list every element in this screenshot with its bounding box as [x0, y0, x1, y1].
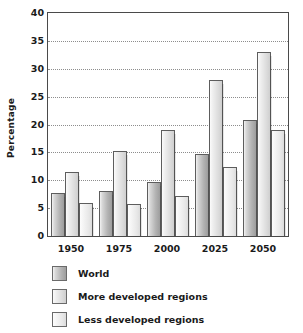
- y-axis-tick-label: 35: [18, 34, 44, 45]
- legend-label-0: World: [78, 268, 109, 279]
- legend-label-2: Less developed regions: [78, 314, 204, 325]
- bar-1950-series-0: [51, 193, 65, 236]
- bar-group-2000: [147, 13, 190, 236]
- bar-2050-series-0: [243, 120, 257, 236]
- y-axis-tick-label: 30: [18, 62, 44, 73]
- bar-2000-series-1: [161, 130, 175, 236]
- bar-1975-series-1: [113, 151, 127, 236]
- x-axis-tick-label-2025: 2025: [202, 243, 228, 254]
- bar-groups: [48, 13, 288, 236]
- y-axis-tick-label: 25: [18, 90, 44, 101]
- x-axis-tick-label-2050: 2050: [250, 243, 276, 254]
- legend-swatch-icon-1: [52, 289, 67, 304]
- x-axis-tick-label-2000: 2000: [154, 243, 180, 254]
- x-axis-tick-labels: 19501975200020252050: [47, 243, 289, 259]
- bar-group-1950: [51, 13, 94, 236]
- bar-2025-series-2: [223, 167, 237, 236]
- bar-2025-series-1: [209, 80, 223, 236]
- bar-group-1975: [99, 13, 142, 236]
- legend-item-0: World: [52, 262, 292, 285]
- x-axis-tick-label-1950: 1950: [58, 243, 84, 254]
- bar-2025-series-0: [195, 154, 209, 237]
- bar-2050-series-1: [257, 52, 271, 236]
- legend-label-1: More developed regions: [78, 291, 208, 302]
- y-axis-tick-label: 0: [18, 230, 44, 241]
- y-axis-tick-label: 20: [18, 118, 44, 129]
- bar-2000-series-0: [147, 182, 161, 236]
- legend-swatch-icon-2: [52, 312, 67, 327]
- y-axis-tick-label: 40: [18, 7, 44, 18]
- bar-group-2050: [243, 13, 286, 236]
- bar-group-2025: [195, 13, 238, 236]
- y-axis-title-text: Percentage: [6, 98, 16, 158]
- bar-1950-series-2: [79, 203, 93, 236]
- x-axis-tick-label-1975: 1975: [106, 243, 132, 254]
- y-axis-tick-label: 15: [18, 146, 44, 157]
- legend-item-2: Less developed regions: [52, 308, 292, 331]
- y-axis-tick-label: 5: [18, 202, 44, 213]
- plot-area: [47, 12, 289, 237]
- bar-2000-series-2: [175, 196, 189, 236]
- bar-1975-series-2: [127, 204, 141, 236]
- y-axis-tick-label: 10: [18, 174, 44, 185]
- legend-swatch-icon-0: [52, 266, 67, 281]
- bar-1950-series-1: [65, 172, 79, 236]
- bar-2050-series-2: [271, 130, 285, 236]
- chart-legend: WorldMore developed regionsLess develope…: [52, 262, 292, 331]
- chart-figure: Percentage 0510152025303540 195019752000…: [0, 0, 303, 333]
- legend-item-1: More developed regions: [52, 285, 292, 308]
- bar-1975-series-0: [99, 191, 113, 236]
